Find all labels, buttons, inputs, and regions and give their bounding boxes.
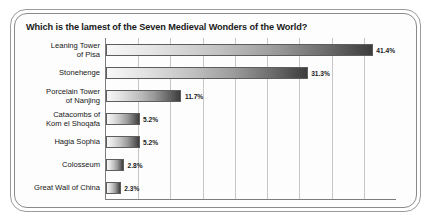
category-label-line1: Porcelain Tower	[18, 87, 100, 96]
bar-value-label: 31.3%	[311, 70, 330, 77]
category-label-line1: Hagia Sophia	[18, 137, 100, 146]
bar-value-label: 5.2%	[143, 116, 158, 123]
category-label-line2: Kom el Shoqafa	[18, 119, 100, 128]
chart-container: Leaning Towerof PisaStonehengePorcelain …	[19, 38, 400, 200]
category-label: Leaning Towerof Pisa	[18, 41, 100, 59]
bar	[106, 67, 308, 79]
category-label-line1: Colosseum	[18, 160, 100, 169]
bar-value-label: 2.3%	[124, 185, 139, 192]
figure-root: Which is the lamest of the Seven Medieva…	[0, 0, 433, 223]
category-label: Porcelain Towerof Nanjing	[18, 87, 100, 105]
category-label-line2: of Nanjing	[18, 96, 100, 105]
category-label: Stonehenge	[18, 68, 100, 77]
gridline-15	[203, 38, 204, 199]
category-label: Catacombs ofKom el Shoqafa	[18, 110, 100, 128]
bar	[106, 159, 124, 171]
plot-area: 41.4%31.3%11.7%5.2%5.2%2.8%2.3%	[105, 38, 396, 200]
category-label-line1: Great Wall of China	[18, 183, 100, 192]
bar	[106, 44, 373, 56]
gridline-10	[170, 38, 171, 199]
gridline-40	[364, 38, 365, 199]
bar	[106, 90, 181, 102]
bar-value-label: 11.7%	[185, 93, 203, 100]
gridline-25	[267, 38, 268, 199]
category-label: Great Wall of China	[18, 183, 100, 192]
gridline-30	[299, 38, 300, 199]
bar-value-label: 5.2%	[143, 139, 158, 146]
gridline-20	[235, 38, 236, 199]
bar	[106, 113, 140, 125]
page-title: Which is the lamest of the Seven Medieva…	[26, 22, 396, 32]
category-label-line2: of Pisa	[18, 50, 100, 59]
category-label-line1: Stonehenge	[18, 68, 100, 77]
category-label-line1: Leaning Tower	[18, 41, 100, 50]
bar	[106, 136, 140, 148]
gridline-35	[332, 38, 333, 199]
category-label: Hagia Sophia	[18, 137, 100, 146]
bar-value-label: 41.4%	[376, 47, 395, 54]
category-label: Colosseum	[18, 160, 100, 169]
category-label-line1: Catacombs of	[18, 110, 100, 119]
category-axis: Leaning Towerof PisaStonehengePorcelain …	[19, 38, 104, 200]
bar-value-label: 2.8%	[128, 162, 143, 169]
bar	[106, 182, 121, 194]
